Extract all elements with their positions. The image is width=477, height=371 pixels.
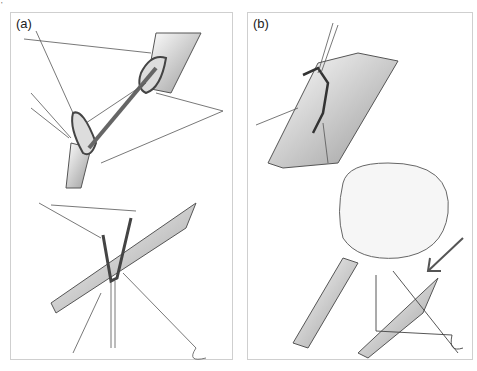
bulbous-structure — [340, 163, 449, 258]
panel-a-illustration — [11, 13, 234, 361]
corner-mark: ' — [1, 0, 3, 9]
suture-bar — [89, 68, 156, 148]
panel-b: (b) — [247, 12, 473, 360]
vessel-lower-right — [358, 278, 438, 358]
anastomosed-vessel — [268, 53, 398, 168]
panel-b-illustration — [248, 13, 474, 361]
panel-a: (a) — [10, 12, 233, 360]
vessel-lower-left — [293, 258, 358, 348]
vessel-lower — [51, 203, 196, 313]
stay-sutures — [24, 31, 223, 163]
